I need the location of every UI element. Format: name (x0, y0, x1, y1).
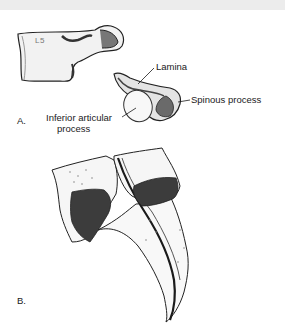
vertebra-label-l5: L5 (35, 36, 45, 45)
panel-letter-b: B. (17, 295, 26, 306)
label-inferior-articular-line2: process (57, 124, 90, 134)
label-lamina: Lamina (156, 62, 187, 72)
lamina-fragment (114, 73, 181, 126)
label-inferior-articular-line1: Inferior articular (46, 113, 112, 123)
anatomical-illustration (0, 0, 285, 332)
label-spinous-process: Spinous process (191, 95, 261, 105)
lateral-view-structure (52, 148, 188, 322)
panel-letter-a: A. (17, 115, 26, 126)
vertebral-body-l5 (18, 26, 124, 82)
